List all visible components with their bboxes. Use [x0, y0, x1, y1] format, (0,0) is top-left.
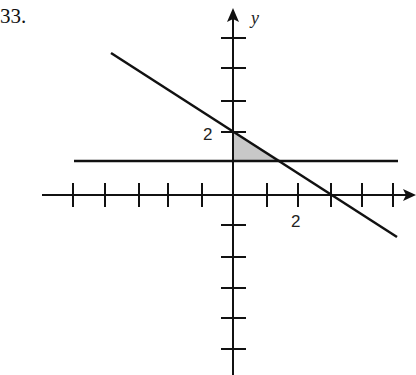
- y-tick-label: 2: [203, 125, 212, 144]
- y-axis-label: y: [249, 8, 259, 28]
- diagonal-line: [111, 53, 397, 237]
- x-tick-label: 2: [291, 212, 300, 231]
- coordinate-graph: 2 2 y: [0, 0, 416, 375]
